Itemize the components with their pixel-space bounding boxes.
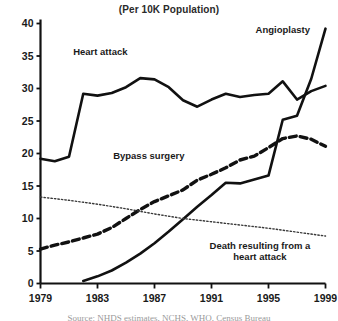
x-tick-label: 1995 xyxy=(257,292,281,304)
y-axis: 0510152025303540 xyxy=(22,17,41,289)
y-tick-label: 40 xyxy=(22,17,34,29)
chart-container: (Per 10K Population) 0510152025303540 19… xyxy=(0,0,338,321)
y-tick-label: 30 xyxy=(22,82,34,94)
series-label-death-line2: heart attack xyxy=(233,251,287,262)
x-tick-label: 1983 xyxy=(86,292,110,304)
y-tick-label: 20 xyxy=(22,147,34,159)
x-tick-label: 1991 xyxy=(200,292,224,304)
series-line-death-resulting-from-a-heart-attack xyxy=(41,197,326,236)
x-tick-label: 1979 xyxy=(29,292,53,304)
x-tick-label: 1987 xyxy=(143,292,167,304)
series-label-death-line1: Death resulting from a xyxy=(210,240,312,251)
line-chart-plot: 0510152025303540 19791983198719911995199… xyxy=(0,0,338,321)
series-label-angioplasty: Angioplasty xyxy=(256,24,311,35)
x-tick-label: 1999 xyxy=(314,292,338,304)
y-tick-label: 25 xyxy=(22,115,34,127)
series-label-heart-attack: Heart attack xyxy=(73,46,128,57)
y-tick-label: 15 xyxy=(22,180,34,192)
source-note: Source: NHDS estimates, NCHS, WHO, Censu… xyxy=(0,309,338,321)
y-tick-label: 10 xyxy=(22,212,34,224)
x-axis: 197919831987199119951999 xyxy=(29,284,338,304)
y-tick-label: 5 xyxy=(28,245,34,257)
y-tick-label: 0 xyxy=(28,277,34,289)
y-tick-label: 35 xyxy=(22,50,34,62)
series-label-bypass-surgery: Bypass surgery xyxy=(113,150,185,161)
